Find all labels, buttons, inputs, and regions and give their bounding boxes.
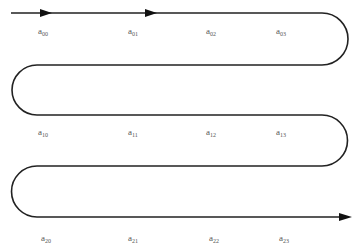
node-label-a21: a21: [128, 234, 138, 244]
arrow-head-icon: [145, 9, 157, 17]
node-label-a03: a03: [276, 27, 286, 37]
node-label-a02: a02: [206, 27, 216, 37]
node-label-a01: a01: [128, 27, 138, 37]
node-label-a00: a00: [38, 27, 48, 37]
node-label-a22: a22: [209, 234, 219, 244]
node-label-a23: a23: [279, 234, 289, 244]
node-label-a12: a12: [206, 128, 216, 138]
node-label-a20: a20: [41, 234, 51, 244]
node-label-a13: a13: [276, 128, 286, 138]
scan-path-line: [11, 13, 348, 217]
arrow-head-end-icon: [339, 213, 352, 221]
node-label-a11: a11: [128, 128, 138, 138]
serpentine-path: [0, 0, 358, 252]
arrow-head-icon: [40, 9, 52, 17]
node-label-a10: a10: [38, 128, 48, 138]
